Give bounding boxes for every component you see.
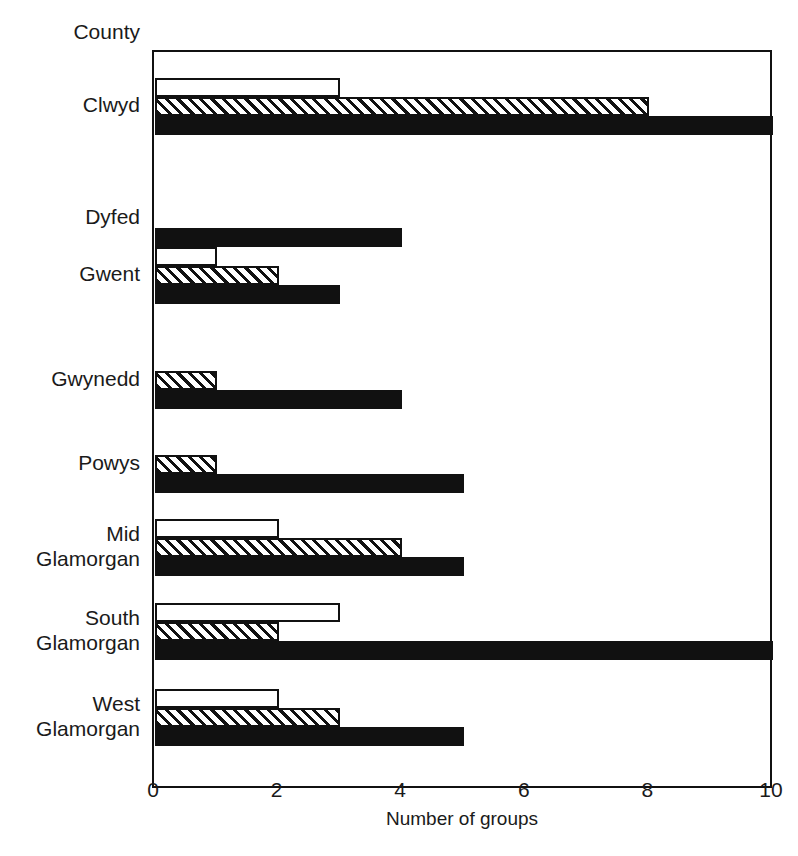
bar-black-west-glamorgan — [155, 727, 464, 746]
category-label-south-glamorgan: South Glamorgan — [0, 605, 140, 655]
bar-white-gwent — [155, 247, 217, 266]
bar-black-powys — [155, 474, 464, 493]
bar-hatched-south-glamorgan — [155, 622, 279, 641]
bar-black-gwent — [155, 285, 340, 304]
x-tick-6: 6 — [518, 778, 530, 802]
x-axis-title: Number of groups — [152, 808, 772, 830]
x-tick-8: 8 — [642, 778, 654, 802]
category-label-clwyd: Clwyd — [0, 92, 140, 117]
category-label-west-glamorgan: West Glamorgan — [0, 691, 140, 741]
category-label-powys: Powys — [0, 450, 140, 475]
bar-black-clwyd — [155, 116, 773, 135]
bar-white-west-glamorgan — [155, 689, 279, 708]
x-tick-0: 0 — [147, 778, 159, 802]
category-label-dyfed: Dyfed — [0, 204, 140, 229]
plot-area — [152, 50, 772, 788]
x-tick-10: 10 — [759, 778, 782, 802]
x-tick-4: 4 — [394, 778, 406, 802]
bar-hatched-mid-glamorgan — [155, 538, 402, 557]
bar-hatched-gwynedd — [155, 371, 217, 390]
bar-white-south-glamorgan — [155, 603, 340, 622]
bar-black-dyfed — [155, 228, 402, 247]
bar-hatched-clwyd — [155, 97, 649, 116]
bar-hatched-gwent — [155, 266, 279, 285]
category-label-mid-glamorgan: Mid Glamorgan — [0, 521, 140, 571]
bar-chart: County ClwydDyfedGwentGwyneddPowysMid Gl… — [0, 0, 798, 856]
category-label-gwent: Gwent — [0, 261, 140, 286]
bar-black-gwynedd — [155, 390, 402, 409]
x-tick-2: 2 — [271, 778, 283, 802]
bar-black-south-glamorgan — [155, 641, 773, 660]
bar-hatched-powys — [155, 455, 217, 474]
bar-white-clwyd — [155, 78, 340, 97]
bars-layer — [154, 52, 770, 786]
bar-white-mid-glamorgan — [155, 519, 279, 538]
category-label-gwynedd: Gwynedd — [0, 366, 140, 391]
bar-black-mid-glamorgan — [155, 557, 464, 576]
y-axis-title: County — [0, 20, 140, 44]
bar-hatched-west-glamorgan — [155, 708, 340, 727]
